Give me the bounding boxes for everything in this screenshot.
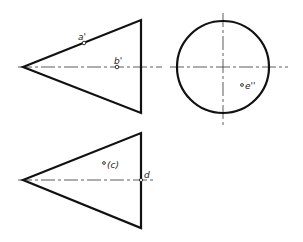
top-view-triangle: [23, 133, 141, 228]
label-c: (c): [107, 160, 119, 170]
side-view: e'': [170, 13, 288, 128]
top-view: (c) d: [18, 133, 155, 228]
cone-projection-drawing: a' b' e'' (c) d: [0, 0, 303, 242]
label-a: a': [78, 32, 86, 42]
label-b: b': [114, 56, 122, 66]
front-view: a' b': [18, 20, 162, 113]
point-d: [139, 178, 142, 181]
label-d: d: [144, 170, 150, 180]
point-e: [241, 84, 244, 87]
point-c: [103, 162, 106, 165]
label-e: e'': [245, 81, 256, 91]
